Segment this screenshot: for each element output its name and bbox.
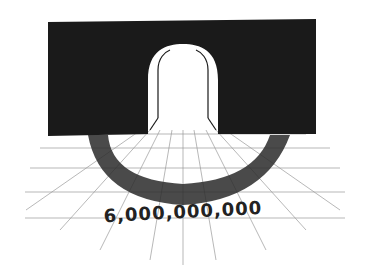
population-caption: 6,000,000,000 [103, 197, 263, 226]
doorway [150, 50, 216, 130]
illustration: 6,000,000,000 [0, 0, 366, 274]
wall [48, 19, 316, 136]
